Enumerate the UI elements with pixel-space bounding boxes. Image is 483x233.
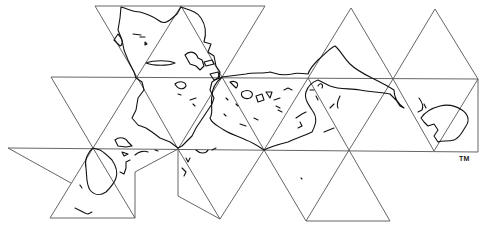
trademark-label: TM xyxy=(459,155,470,162)
eurasia-coast xyxy=(210,46,404,150)
south-america-coast xyxy=(85,148,116,194)
dymaxion-map xyxy=(0,0,483,233)
icosahedron-grid xyxy=(8,6,478,221)
coastlines xyxy=(75,7,468,214)
antarctica-coast xyxy=(421,105,468,142)
